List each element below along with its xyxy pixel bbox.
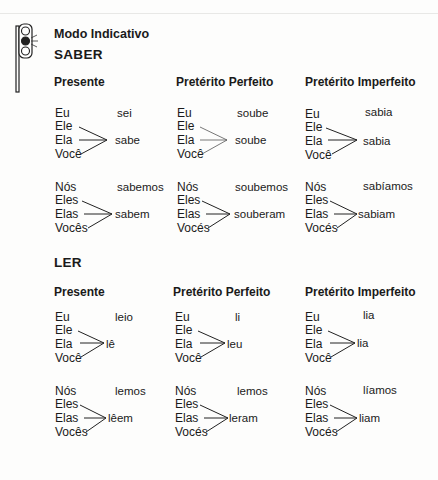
conjugation-group-saber-perfeito-plural: Nós soubemos Eles Elas Vocés souberam [177,180,297,236]
form-shared: lêem [108,411,133,425]
form-shared: leram [229,411,258,425]
bracket-arrow-icon [305,107,415,163]
page-top-rule [0,13,438,14]
conjugation-group-saber-perfeito-singular: Eu soube Ele Ela Você soube [177,106,297,162]
form-shared: sabe [115,133,140,147]
form-shared: soube [235,133,266,147]
form-shared: sabem [115,207,150,221]
form-shared: liam [359,411,380,425]
conjugation-group-ler-imperfeito-singular: Eu lia Ele Ela Você lia [305,310,425,366]
form-shared: souberam [234,207,285,221]
conjugation-group-ler-imperfeito-plural: Nós líamos Eles Elas Vocés liam [305,384,425,440]
conjugation-group-saber-imperfeito-singular: Eu sabia Ele Ela Você sabia [305,107,425,163]
page-title: Modo Indicativo [54,27,149,41]
conjugation-group-saber-presente-singular: Eu sei Ele Ela Você sabe [55,106,175,162]
conjugation-group-saber-imperfeito-plural: Nós sabíamos Eles Elas Vocés sabiam [305,180,425,236]
form-shared: lê [106,337,115,351]
traffic-light-icon [14,22,36,92]
tense-heading-ler-imperfeito: Pretérito Imperfeito [305,285,416,299]
conjugation-group-ler-perfeito-plural: Nós lemos Eles Elas Vocés leram [175,384,295,440]
form-shared: sabiam [358,207,395,221]
verb-heading-saber: SABER [54,47,103,62]
verb-heading-ler: LER [54,255,82,270]
tense-heading-saber-presente: Presente [54,75,105,89]
form-shared: leu [227,337,242,351]
conjugation-group-ler-presente-plural: Nós lemos Eles Elas Vocês lêem [55,384,175,440]
bracket-arrow-icon [55,106,165,162]
tense-heading-ler-presente: Presente [54,285,105,299]
conjugation-group-ler-perfeito-singular: Eu li Ele Ela Você leu [175,310,295,366]
form-shared: lia [357,336,369,350]
tense-heading-ler-perfeito: Pretérito Perfeito [173,285,270,299]
tense-heading-saber-imperfeito: Pretérito Imperfeito [305,75,416,89]
bracket-arrow-icon [177,106,287,162]
conjugation-group-saber-presente-plural: Nós sabemos Eles Elas Vocês sabem [55,180,175,236]
conjugation-group-ler-presente-singular: Eu leio Ele Ela Você lê [55,310,175,366]
form-shared: sabia [363,134,391,148]
tense-heading-saber-perfeito: Pretérito Perfeito [176,75,273,89]
